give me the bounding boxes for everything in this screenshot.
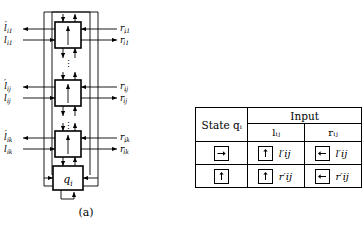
header-state: State qᵢ [196,108,248,142]
label-left-out-1: li1′ [4,20,13,34]
automaton-diagram: ⋮ ⋮ li1′ li1 ri1 r′i1 lij′ lij rij r′ij … [0,0,181,200]
label-left-in-1: li1 [4,35,13,46]
cell-r2-c1-label: r′ij [279,171,295,182]
table-header-row-1: State qᵢ Input [196,108,362,124]
state-transition-table: State qᵢ Input lᵢⱼ rᵢⱼ [195,107,362,188]
header-input-label: Input [290,110,319,122]
up-arrow-box-icon [258,169,273,184]
header-col-l: lᵢⱼ [248,124,305,142]
cell-r1-c1: l′ij [248,142,305,165]
header-col-r: rᵢⱼ [305,124,362,142]
label-left-in-j: lij [4,93,11,105]
left-arrow-box-icon [315,169,330,184]
panel-b: State qᵢ Input lᵢⱼ rᵢⱼ [181,0,362,244]
up-arrow-box-icon [214,169,229,184]
right-arrow-box-icon [214,146,229,161]
header-state-label: State qᵢ [202,119,242,131]
automaton-diagram-svg: ⋮ ⋮ li1′ li1 ri1 r′i1 lij′ lij rij r′ij … [0,0,181,200]
label-left-out-j: lij′ [4,78,11,93]
cell-r2-c2: r′ij [305,165,362,188]
label-left-in-k: lik [4,144,13,155]
figure-container: ⋮ ⋮ li1′ li1 ri1 r′i1 lij′ lij rij r′ij … [0,0,362,244]
cell-r2-c1: r′ij [248,165,305,188]
cell-r1-c2: l′ij [305,142,362,165]
up-arrow-box-icon [258,146,273,161]
cell-r1-c1-label: l′ij [279,148,295,159]
label-right-out-j: r′ij [120,89,127,105]
cell-r1-c2-label: l′ij [336,148,352,159]
left-arrow-box-icon [315,146,330,161]
cell-r2-c2-label: r′ij [336,171,352,182]
panel-a: ⋮ ⋮ li1′ li1 ri1 r′i1 lij′ lij rij r′ij … [0,0,181,244]
vertical-dots-2: ⋮ [64,121,73,131]
header-col-r-label: rᵢⱼ [328,127,337,138]
table-row: l′ij l′ij [196,142,362,165]
vertical-dots-1: ⋮ [64,59,73,69]
header-col-l-label: lᵢⱼ [272,127,280,138]
table-row: r′ij r′ij [196,165,362,188]
state-table-wrap: State qᵢ Input lᵢⱼ rᵢⱼ [195,107,362,188]
caption-a: (a) [56,206,116,219]
cell-state-1 [196,142,248,165]
label-left-out-k: lik′ [4,129,13,143]
cell-state-2 [196,165,248,188]
header-input: Input [248,108,362,124]
